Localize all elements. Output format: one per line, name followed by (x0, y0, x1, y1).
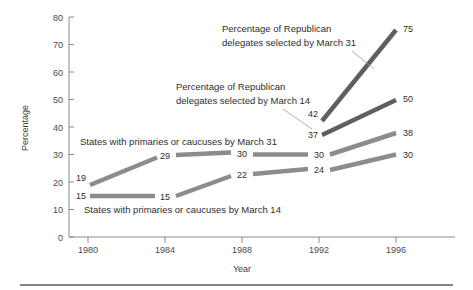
datalabel-delegates-march14-1996: 50 (403, 94, 413, 104)
y-tick-label-80: 80 (53, 13, 63, 23)
datalabel-delegates-march31-1996: 75 (403, 24, 413, 34)
y-tick-label-70: 70 (53, 40, 63, 50)
series-states-march31-seg-1984-1988 (176, 153, 231, 156)
annot-states-march14: States with primaries or caucuses by Mar… (84, 204, 281, 215)
x-tick-label-1980: 1980 (78, 245, 98, 255)
annot-delegates-march14-line1: Percentage of Republican (176, 81, 285, 92)
datalabel-states-march31-1992: 30 (314, 150, 324, 160)
x-axis-tick-labels: 1980 1984 1988 1992 1996 (78, 245, 406, 255)
x-tick-label-1996: 1996 (386, 245, 406, 255)
y-axis-ticks (69, 17, 74, 237)
y-tick-label-60: 60 (53, 68, 63, 78)
y-tick-label-30: 30 (53, 150, 63, 160)
datalabel-states-march31-1996: 38 (403, 128, 413, 138)
series-states-march14-seg-1992-1996 (330, 155, 396, 171)
y-tick-label-50: 50 (53, 95, 63, 105)
datalabel-states-march31-1984: 29 (160, 151, 170, 161)
y-tick-label-0: 0 (58, 233, 63, 243)
y-tick-label-40: 40 (53, 123, 63, 133)
x-axis-ticks (88, 237, 396, 243)
datalabel-states-march31-1988: 30 (237, 149, 247, 159)
y-tick-label-10: 10 (53, 205, 63, 215)
x-tick-label-1992: 1992 (309, 245, 329, 255)
annot-delegates-march31-line1: Percentage of Republican (222, 23, 331, 34)
datalabel-delegates-march31-1992: 42 (308, 109, 318, 119)
x-axis-title: Year (233, 264, 251, 274)
x-tick-label-1988: 1988 (232, 245, 252, 255)
y-axis-tick-labels: 80 70 60 50 40 30 20 10 0 (53, 13, 63, 243)
annot-delegates-march31-line2: delegates selected by March 31 (222, 37, 356, 48)
y-axis: 80 70 60 50 40 30 20 10 0 Percentage (20, 13, 74, 243)
annot-delegates-march14-line2: delegates selected by March 14 (176, 95, 310, 106)
annot-delegates-march31: Percentage of Republican delegates selec… (222, 23, 374, 69)
x-tick-label-1984: 1984 (155, 245, 175, 255)
series-states-march14-seg-1988-1992 (253, 169, 308, 174)
datalabel-states-march14-1984: 15 (160, 192, 170, 202)
x-axis: 1980 1984 1988 1992 1996 Year (69, 237, 455, 274)
series-states-march14-seg-1984-1988 (176, 176, 231, 196)
annot-states-march14-line1: States with primaries or caucuses by Mar… (84, 204, 281, 215)
datalabel-states-march14-1996: 30 (403, 150, 413, 160)
annot-delegates-march14: Percentage of Republican delegates selec… (176, 81, 312, 129)
datalabel-states-march14-1992: 24 (314, 165, 324, 175)
datalabel-states-march31-1980: 19 (76, 173, 86, 183)
y-axis-title: Percentage (20, 105, 30, 151)
datalabel-states-march14-1988: 22 (237, 170, 247, 180)
y-tick-label-20: 20 (53, 178, 63, 188)
datalabel-delegates-march14-1992: 37 (308, 130, 318, 140)
annot-states-march31-line1: States with primaries or caucuses by Mar… (80, 136, 277, 147)
series-states-march31-seg-1992-1996 (330, 133, 396, 155)
annot-states-march31: States with primaries or caucuses by Mar… (80, 136, 277, 147)
chart-figure: 80 70 60 50 40 30 20 10 0 Percentage 198… (0, 0, 473, 290)
datalabel-states-march14-1980: 15 (76, 191, 86, 201)
series-states-march31-seg-1980-1984 (90, 158, 157, 186)
